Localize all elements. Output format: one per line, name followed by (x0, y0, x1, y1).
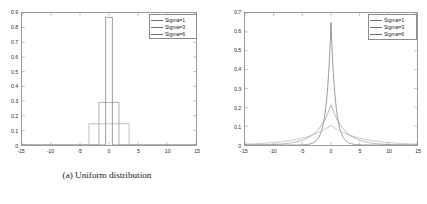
figure-container: Sigma=1 Sigma=3 Sigma=6 00.10.20.30.40.5… (0, 0, 427, 204)
legend-line-swatch-sigma6 (151, 34, 163, 35)
y-tick-label: 0.6 (1, 54, 18, 60)
x-tick-label: 15 (194, 148, 200, 154)
y-tick-label: 0.1 (1, 128, 18, 134)
legend-row: Sigma=3 (151, 24, 194, 31)
chart-panel-laplacian: Sigma=1 Sigma=3 Sigma=6 00.10.20.30.40.5… (214, 0, 427, 165)
y-tick-label: 0.1 (224, 124, 241, 130)
y-tick-label: 0.2 (1, 113, 18, 119)
x-tick-label: -15 (240, 148, 247, 154)
y-tick-label: 0.3 (1, 98, 18, 104)
y-tick-label: 0.2 (224, 105, 241, 111)
legend-row: Sigma=6 (370, 31, 414, 38)
y-tick-label: 0.4 (1, 83, 18, 89)
y-tick-label: 0.6 (224, 28, 241, 34)
legend-line-swatch-sigma3 (151, 27, 163, 28)
y-tick-label: 0.7 (224, 9, 241, 15)
y-tick-label: 0.9 (1, 9, 18, 15)
y-tick-label: 0.4 (224, 66, 241, 72)
legend-label-sigma3: Sigma=3 (165, 24, 185, 31)
legend-line-swatch-sigma1 (151, 20, 163, 21)
legend-line-swatch-sigma3 (370, 27, 382, 28)
caption-uniform: (a) Uniform distribution (0, 170, 214, 180)
y-tick-label: 0.7 (1, 39, 18, 45)
chart-panel-uniform: Sigma=1 Sigma=3 Sigma=6 00.10.20.30.40.5… (0, 0, 214, 165)
legend-row: Sigma=1 (151, 17, 194, 24)
y-tick-label: 0.5 (224, 47, 241, 53)
legend-label-sigma1: Sigma=1 (165, 17, 185, 24)
x-tick-label: 10 (386, 148, 392, 154)
legend-row: Sigma=6 (151, 31, 194, 38)
legend-label-sigma6: Sigma=6 (165, 31, 185, 38)
x-tick-label: 10 (165, 148, 171, 154)
y-tick-label: 0 (1, 143, 18, 149)
x-tick-label: 5 (359, 148, 362, 154)
x-tick-label: -10 (47, 148, 54, 154)
plot-area-uniform: Sigma=1 Sigma=3 Sigma=6 (21, 12, 197, 146)
x-tick-label: -5 (77, 148, 82, 154)
x-tick-label: 0 (330, 148, 333, 154)
x-tick-label: 15 (415, 148, 421, 154)
legend-line-swatch-sigma6 (370, 34, 382, 35)
legend-row: Sigma=3 (370, 24, 414, 31)
legend-label-sigma6: Sigma=6 (384, 31, 404, 38)
x-tick-label: -15 (17, 148, 24, 154)
legend-laplacian: Sigma=1 Sigma=3 Sigma=6 (368, 14, 417, 40)
legend-label-sigma3: Sigma=3 (384, 24, 404, 31)
legend-row: Sigma=1 (370, 17, 414, 24)
legend-label-sigma1: Sigma=1 (384, 17, 404, 24)
legend-line-swatch-sigma1 (370, 20, 382, 21)
y-tick-label: 0.8 (1, 24, 18, 30)
x-tick-label: -5 (300, 148, 305, 154)
y-tick-label: 0 (224, 143, 241, 149)
x-tick-label: 0 (108, 148, 111, 154)
x-tick-label: -10 (269, 148, 276, 154)
plot-area-laplacian: Sigma=1 Sigma=3 Sigma=6 (244, 12, 418, 146)
y-tick-label: 0.5 (1, 69, 18, 75)
legend-uniform: Sigma=1 Sigma=3 Sigma=6 (149, 14, 197, 39)
x-tick-label: 5 (137, 148, 140, 154)
y-tick-label: 0.3 (224, 86, 241, 92)
